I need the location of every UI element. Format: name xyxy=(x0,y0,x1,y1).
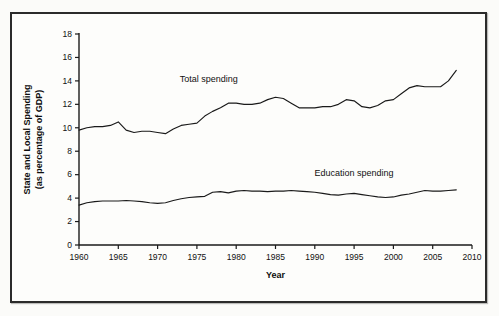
x-tick-label: 1965 xyxy=(109,252,128,262)
y-tick-label: 14 xyxy=(63,76,73,86)
y-tick-label: 8 xyxy=(67,146,72,156)
x-axis-title: Year xyxy=(266,270,286,280)
chart-plot-area: 0246810121416181960196519701975198019851… xyxy=(12,14,485,301)
chart-figure-frame: 0246810121416181960196519701975198019851… xyxy=(10,12,487,303)
x-tick-label: 1960 xyxy=(70,252,89,262)
x-tick-label: 1985 xyxy=(266,252,285,262)
series-label-total-spending: Total spending xyxy=(180,74,238,84)
y-tick-label: 16 xyxy=(63,52,73,62)
y-tick-label: 18 xyxy=(63,29,73,39)
y-axis-title-line2: (as percentage of GDP) xyxy=(34,90,44,190)
y-tick-label: 2 xyxy=(67,216,72,226)
x-tick-label: 1980 xyxy=(227,252,246,262)
x-tick-label: 1970 xyxy=(148,252,167,262)
y-tick-label: 0 xyxy=(67,240,72,250)
series-line-total-spending xyxy=(79,70,456,133)
y-tick-label: 4 xyxy=(67,193,72,203)
y-tick-label: 6 xyxy=(67,169,72,179)
line-chart-svg: 0246810121416181960196519701975198019851… xyxy=(12,14,485,301)
series-label-education-spending: Education spending xyxy=(315,168,394,178)
x-tick-label: 1975 xyxy=(187,252,206,262)
x-tick-label: 2005 xyxy=(423,252,442,262)
y-axis-title-line1: State and Local Spending xyxy=(22,84,32,194)
y-tick-label: 10 xyxy=(63,123,73,133)
x-tick-label: 1990 xyxy=(305,252,324,262)
x-tick-label: 2000 xyxy=(384,252,403,262)
x-tick-label: 2010 xyxy=(463,252,482,262)
series-line-education-spending xyxy=(79,190,456,205)
x-tick-label: 1995 xyxy=(345,252,364,262)
y-tick-label: 12 xyxy=(63,99,73,109)
